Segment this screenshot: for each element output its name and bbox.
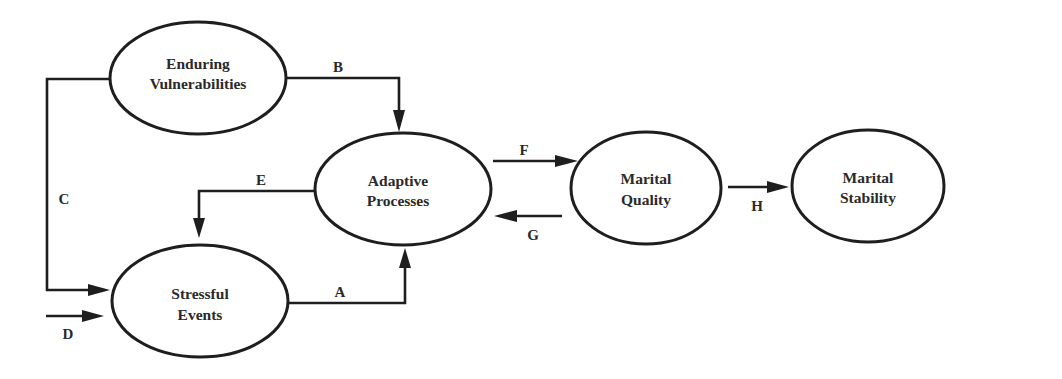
arrow-right-icon	[555, 155, 578, 167]
arrow-down-icon	[193, 218, 205, 238]
node-label-line1: Marital	[621, 170, 672, 187]
node-label-line2: Vulnerabilities	[150, 75, 247, 92]
node-adaptive-processes: Adaptive Processes	[315, 133, 491, 245]
node-label-line2: Stability	[840, 189, 896, 206]
arrow-up-icon	[399, 248, 411, 268]
node-stressful-events: Stressful Events	[112, 245, 288, 357]
node-ellipse	[792, 130, 944, 242]
edge-e: E	[193, 172, 315, 238]
edge-d: D	[46, 310, 104, 342]
edge-label: D	[63, 326, 74, 342]
edge-b: B	[287, 59, 405, 132]
edge-label: B	[333, 59, 343, 75]
node-label-line2: Events	[178, 306, 223, 323]
arrow-left-icon	[494, 210, 517, 222]
node-marital-stability: Marital Stability	[792, 130, 944, 242]
edge-a: A	[288, 248, 411, 303]
edge-label: H	[751, 198, 763, 214]
edge-label: C	[59, 191, 70, 207]
node-label-line2: Processes	[367, 192, 430, 209]
node-label-line1: Enduring	[166, 55, 230, 72]
node-ellipse	[571, 132, 721, 244]
arrow-right-icon	[88, 284, 110, 296]
edge-h: H	[728, 181, 789, 214]
node-ellipse	[315, 133, 491, 245]
arrow-right-icon	[82, 310, 104, 322]
node-enduring-vulnerabilities: Enduring Vulnerabilities	[110, 22, 286, 134]
vsa-model-diagram: Enduring Vulnerabilities Adaptive Proces…	[0, 0, 1062, 379]
edge-label: A	[335, 284, 346, 300]
edge-g: G	[494, 210, 562, 243]
node-label-line1: Stressful	[171, 285, 229, 302]
edge-label: G	[527, 227, 539, 243]
edge-f: F	[493, 142, 578, 167]
edge-c: C	[47, 79, 110, 296]
node-marital-quality: Marital Quality	[571, 132, 721, 244]
edge-label: E	[256, 172, 266, 188]
node-label-line1: Adaptive	[368, 172, 428, 189]
arrow-down-icon	[393, 110, 405, 132]
arrow-right-icon	[767, 181, 789, 193]
node-label-line2: Quality	[621, 191, 671, 208]
edge-label: F	[519, 142, 528, 158]
node-label-line1: Marital	[843, 169, 894, 186]
